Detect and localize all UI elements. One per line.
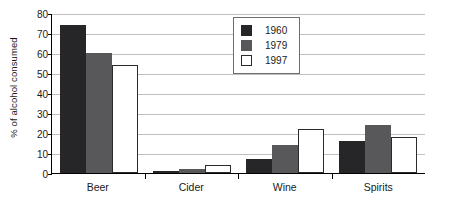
legend-label-1979: 1979 bbox=[265, 40, 287, 51]
x-axis-tick-label-cider: Cider bbox=[145, 181, 239, 199]
bar-wine-1960 bbox=[246, 159, 272, 173]
bar-beer-1960 bbox=[60, 25, 86, 173]
bar-wine-1997 bbox=[298, 129, 324, 173]
bar-wine-1979 bbox=[272, 145, 298, 173]
bar-beer-1997 bbox=[112, 65, 138, 173]
y-axis-tick-label: 30 bbox=[37, 109, 48, 120]
y-axis-tick-labels: 01020304050607080 bbox=[24, 14, 48, 174]
legend-swatch-1960 bbox=[241, 25, 252, 36]
legend-item-1979: 1979 bbox=[241, 38, 287, 53]
x-axis-tick-mark bbox=[145, 174, 146, 179]
bar-spirits-1997 bbox=[391, 137, 417, 173]
y-axis-tick-label: 20 bbox=[37, 129, 48, 140]
legend-swatch-1997 bbox=[241, 55, 252, 66]
chart-legend: 196019791997 bbox=[233, 17, 300, 74]
bar-cider-1997 bbox=[205, 165, 231, 173]
y-axis-tick-label: 40 bbox=[37, 89, 48, 100]
bar-group bbox=[332, 14, 425, 173]
x-axis-tick-label-beer: Beer bbox=[51, 181, 145, 199]
y-axis-tick-label: 60 bbox=[37, 49, 48, 60]
bar-group bbox=[145, 14, 238, 173]
y-axis-tick-label: 50 bbox=[37, 69, 48, 80]
bar-chart: % of alcohol consumed 01020304050607080 … bbox=[0, 0, 449, 220]
bar-spirits-1979 bbox=[365, 125, 391, 173]
bar-cider-1960 bbox=[153, 171, 179, 173]
y-axis-title-text: % of alcohol consumed bbox=[8, 37, 19, 137]
y-axis-tick-label: 80 bbox=[37, 9, 48, 20]
x-axis-tick-marks bbox=[51, 174, 425, 179]
y-axis-tick-label: 70 bbox=[37, 29, 48, 40]
bar-spirits-1960 bbox=[339, 141, 365, 173]
bar-group bbox=[52, 14, 145, 173]
y-axis-title: % of alcohol consumed bbox=[0, 0, 26, 175]
x-axis-tick-mark bbox=[238, 174, 239, 179]
x-axis-tick-label-spirits: Spirits bbox=[332, 181, 426, 199]
bar-cider-1979 bbox=[179, 169, 205, 173]
bar-beer-1979 bbox=[86, 53, 112, 173]
x-axis-tick-labels: BeerCiderWineSpirits bbox=[51, 181, 425, 199]
legend-label-1960: 1960 bbox=[265, 25, 287, 36]
x-axis-tick-label-wine: Wine bbox=[238, 181, 332, 199]
y-axis-tick-label: 10 bbox=[37, 149, 48, 160]
legend-swatch-1979 bbox=[241, 40, 252, 51]
legend-item-1960: 1960 bbox=[241, 23, 287, 38]
legend-label-1997: 1997 bbox=[265, 55, 287, 66]
x-axis-tick-mark bbox=[332, 174, 333, 179]
legend-item-1997: 1997 bbox=[241, 53, 287, 68]
